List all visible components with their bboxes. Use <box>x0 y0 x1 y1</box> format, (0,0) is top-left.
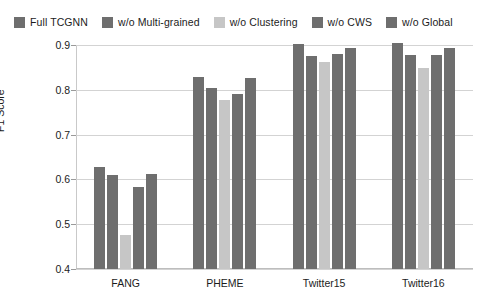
y-axis-tick-mark <box>71 269 76 270</box>
legend-swatch-icon <box>14 17 25 28</box>
x-axis-tick-label: PHEME <box>206 276 243 290</box>
y-axis-tick-mark <box>71 90 76 91</box>
bar[interactable] <box>232 94 243 269</box>
x-axis-tick-label: Twitter15 <box>303 276 346 290</box>
x-axis-tick-labels: FANGPHEMETwitter15Twitter16 <box>76 276 473 292</box>
x-axis-tick-label: Twitter16 <box>402 276 445 290</box>
legend-swatch-icon <box>214 17 225 28</box>
y-axis-tick-mark <box>71 135 76 136</box>
y-axis-tick-mark <box>71 179 76 180</box>
gridline <box>76 269 473 270</box>
legend-label: w/o Clustering <box>230 16 298 28</box>
bar[interactable] <box>332 54 343 269</box>
bar[interactable] <box>293 44 304 269</box>
y-axis-tick-labels: 0.90.80.70.60.50.4 <box>40 45 70 269</box>
bar[interactable] <box>133 187 144 269</box>
bar[interactable] <box>444 48 455 269</box>
bar[interactable] <box>94 167 105 269</box>
chart-legend: Full TCGNNw/o Multi-grainedw/o Clusterin… <box>14 13 474 31</box>
y-axis-tick-label: 0.7 <box>40 129 70 140</box>
bar-group <box>392 45 455 269</box>
x-axis-tick-label: FANG <box>111 276 140 290</box>
legend-swatch-icon <box>386 17 397 28</box>
legend-label: w/o Global <box>402 16 453 28</box>
y-axis-title: F1 Score <box>0 89 6 132</box>
legend-item[interactable]: w/o Multi-grained <box>102 16 200 28</box>
y-axis-tick-label: 0.6 <box>40 174 70 185</box>
legend-label: w/o Multi-grained <box>118 16 200 28</box>
bar-chart: Full TCGNNw/o Multi-grainedw/o Clusterin… <box>0 0 483 307</box>
bar-group <box>293 45 356 269</box>
bar[interactable] <box>146 174 157 269</box>
bar[interactable] <box>120 235 131 269</box>
bar[interactable] <box>405 55 416 269</box>
legend-item[interactable]: w/o Global <box>386 16 453 28</box>
plot-area <box>76 45 473 269</box>
y-axis-tick-mark <box>71 224 76 225</box>
legend-swatch-icon <box>312 17 323 28</box>
legend-label: Full TCGNN <box>30 16 88 28</box>
bar[interactable] <box>431 55 442 269</box>
bar[interactable] <box>418 68 429 269</box>
legend-swatch-icon <box>102 17 113 28</box>
legend-label: w/o CWS <box>328 16 372 28</box>
bar[interactable] <box>392 43 403 269</box>
y-axis-tick-mark <box>71 45 76 46</box>
y-axis-tick-label: 0.5 <box>40 219 70 230</box>
bar[interactable] <box>107 175 118 269</box>
legend-item[interactable]: w/o Clustering <box>214 16 298 28</box>
y-axis-tick-label: 0.8 <box>40 84 70 95</box>
bar-group <box>94 45 157 269</box>
bar[interactable] <box>306 56 317 269</box>
bar[interactable] <box>219 100 230 269</box>
bar-group <box>193 45 256 269</box>
bar[interactable] <box>345 48 356 269</box>
legend-item[interactable]: Full TCGNN <box>14 16 88 28</box>
bar[interactable] <box>245 78 256 269</box>
bar[interactable] <box>193 77 204 269</box>
legend-item[interactable]: w/o CWS <box>312 16 372 28</box>
y-axis-tick-label: 0.4 <box>40 264 70 275</box>
y-axis-tick-label: 0.9 <box>40 40 70 51</box>
bar[interactable] <box>206 88 217 269</box>
bar[interactable] <box>319 62 330 269</box>
